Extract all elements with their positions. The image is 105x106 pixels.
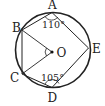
geometry-diagram: A B C D E O 110° 105°: [0, 0, 105, 106]
label-o: O: [57, 46, 67, 60]
label-e: E: [92, 42, 101, 56]
angle-arc-o: [45, 48, 46, 56]
center-point-o: [50, 50, 53, 53]
angle-label-d: 105°: [41, 72, 64, 83]
segment-ob: [22, 30, 52, 52]
label-d: D: [48, 91, 58, 105]
label-b: B: [12, 21, 21, 35]
angle-label-a: 110°: [42, 19, 65, 30]
segment-oc: [22, 52, 52, 74]
label-c: C: [10, 71, 19, 85]
label-a: A: [47, 0, 57, 12]
